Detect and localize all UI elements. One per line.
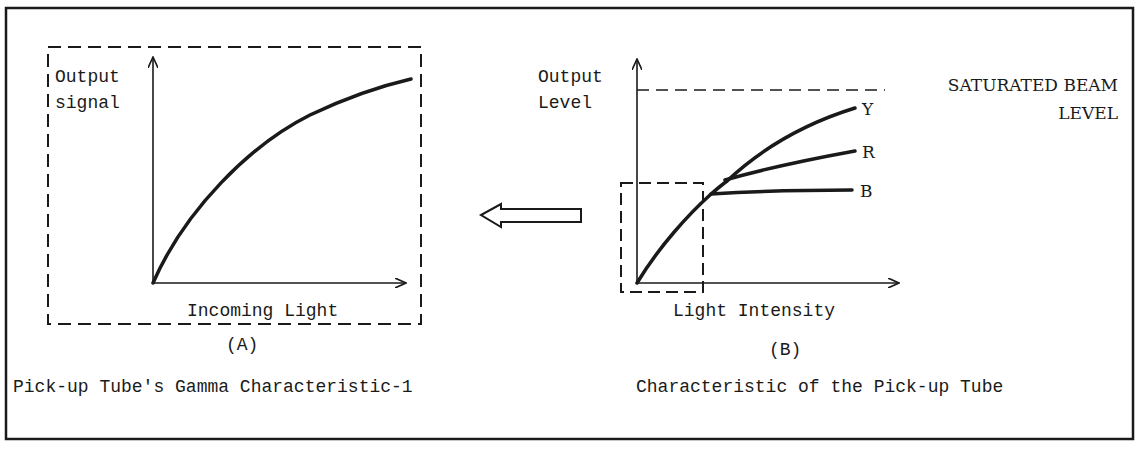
panel-a-caption: Pick-up Tube's Gamma Characteristic-1 bbox=[13, 377, 413, 397]
zoom-region-dashed-box bbox=[621, 183, 703, 292]
curve-y-label: Y bbox=[861, 99, 874, 119]
panel-a-tag: (A) bbox=[226, 335, 258, 355]
curve-b bbox=[711, 190, 852, 194]
panel-b-y-label-2: Level bbox=[538, 93, 592, 113]
panel-b-caption: Characteristic of the Pick-up Tube bbox=[636, 377, 1003, 397]
panel-a-x-label: Incoming Light bbox=[187, 301, 338, 321]
panel-a-y-label-2: signal bbox=[55, 93, 120, 113]
panel-b-x-label: Light Intensity bbox=[673, 301, 835, 321]
panel-a-y-label-1: Output bbox=[55, 67, 120, 87]
saturated-beam-label-1: SATURATED BEAM bbox=[948, 75, 1118, 95]
curve-common-toe bbox=[637, 181, 727, 283]
curve-r-label: R bbox=[862, 142, 876, 162]
curve-b-label: B bbox=[860, 181, 873, 201]
panel-a: Output signal Incoming Light (A) Pick-up… bbox=[13, 47, 421, 397]
panel-b-y-label-1: Output bbox=[538, 67, 603, 87]
hollow-left-arrow-icon bbox=[481, 204, 581, 227]
saturated-beam-label-2: LEVEL bbox=[1058, 103, 1118, 123]
curve-y bbox=[727, 108, 855, 181]
panel-b: Y R B Output Level SATURATED BEAM LEVEL … bbox=[538, 60, 1118, 397]
panel-b-tag: (B) bbox=[769, 340, 801, 360]
panel-a-gamma-curve bbox=[153, 79, 411, 283]
figure-canvas: Output signal Incoming Light (A) Pick-up… bbox=[0, 0, 1141, 449]
